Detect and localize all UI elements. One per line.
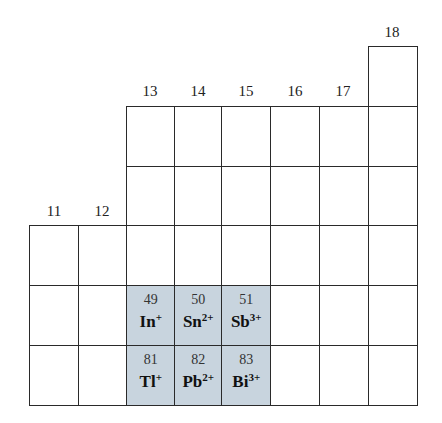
empty-cell: [368, 285, 418, 347]
empty-cell: [368, 345, 418, 406]
empty-cell: [270, 285, 321, 347]
empty-cell: [221, 225, 272, 287]
ion-charge: 2+: [202, 311, 214, 323]
element-symbol: Sb: [231, 312, 250, 331]
ion-charge: 2+: [202, 371, 214, 383]
group-label-17: 17: [319, 83, 367, 100]
empty-cell: [319, 285, 370, 347]
ion-charge: 3+: [250, 311, 262, 323]
empty-cell: [78, 345, 128, 406]
empty-cell: [221, 166, 272, 227]
atomic-number: 81: [127, 352, 175, 368]
empty-cell: [270, 106, 321, 168]
empty-cell: [319, 225, 370, 287]
element-cell-tl: 81Tl+: [126, 345, 176, 406]
empty-cell: [270, 345, 321, 406]
atomic-number: 49: [127, 292, 175, 308]
atomic-number: 50: [175, 292, 222, 308]
atomic-number: 51: [222, 292, 271, 308]
empty-cell: [319, 166, 370, 227]
empty-cell: [368, 225, 418, 287]
element-cell-sn: 50Sn2+: [174, 285, 223, 347]
empty-cell: [174, 106, 223, 168]
empty-cell: [270, 166, 321, 227]
empty-cell: [221, 106, 272, 168]
group-label-12: 12: [78, 203, 126, 220]
empty-cell: [174, 166, 223, 227]
empty-cell: [368, 166, 418, 227]
ion-symbol: In+: [127, 312, 175, 332]
empty-cell: [319, 345, 370, 406]
empty-cell: [126, 166, 176, 227]
element-cell-sb: 51Sb3+: [221, 285, 272, 347]
ion-symbol: Sn2+: [175, 312, 222, 332]
empty-cell: [319, 106, 370, 168]
empty-cell: [29, 345, 80, 406]
empty-cell: [270, 225, 321, 287]
ion-symbol: Sb3+: [222, 312, 271, 332]
group-label-15: 15: [222, 83, 270, 100]
empty-cell: [78, 225, 128, 287]
group-label-11: 11: [30, 203, 78, 220]
ion-charge: +: [156, 311, 162, 323]
empty-cell: [126, 106, 176, 168]
empty-cell: [126, 225, 176, 287]
ion-symbol: Pb2+: [175, 372, 222, 392]
group-label-18: 18: [368, 24, 416, 41]
atomic-number: 82: [175, 352, 222, 368]
element-symbol: Sn: [183, 312, 202, 331]
empty-cell: [174, 225, 223, 287]
element-cell-pb: 82Pb2+: [174, 345, 223, 406]
element-symbol: Pb: [182, 372, 202, 391]
empty-cell: [368, 46, 418, 108]
ion-symbol: Tl+: [127, 372, 175, 392]
element-cell-bi: 83Bi3+: [221, 345, 272, 406]
empty-cell: [29, 225, 80, 287]
element-symbol: Bi: [232, 372, 248, 391]
element-symbol: In: [140, 312, 156, 331]
ion-charge: 3+: [248, 371, 260, 383]
empty-cell: [368, 106, 418, 168]
atomic-number: 83: [222, 352, 271, 368]
element-cell-in: 49In+: [126, 285, 176, 347]
group-label-13: 13: [126, 83, 174, 100]
empty-cell: [78, 285, 128, 347]
group-label-16: 16: [271, 83, 319, 100]
group-label-14: 14: [174, 83, 222, 100]
element-symbol: Tl: [140, 372, 156, 391]
ion-symbol: Bi3+: [222, 372, 271, 392]
empty-cell: [29, 285, 80, 347]
ion-charge: +: [156, 371, 162, 383]
